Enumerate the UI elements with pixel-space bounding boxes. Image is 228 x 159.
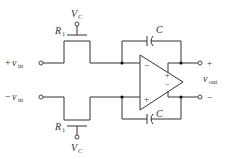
svg-text:1: 1	[62, 30, 65, 37]
negative-input-label: − v in	[5, 91, 24, 103]
svg-text:C: C	[78, 13, 83, 20]
opamp-output-minus-wire	[168, 91, 198, 97]
junction-top-output	[179, 61, 182, 64]
svg-text:R: R	[54, 121, 61, 132]
top-capacitor-label: C	[156, 24, 163, 35]
svg-text:1: 1	[62, 126, 65, 133]
output-plus-label: +	[207, 58, 212, 68]
opamp-noninverting-sign: +	[144, 94, 149, 104]
top-vc-terminal	[75, 22, 79, 26]
svg-text:C: C	[78, 147, 83, 154]
svg-text:in: in	[18, 96, 24, 103]
junction-top-input	[120, 61, 123, 64]
bottom-vc-terminal	[75, 135, 79, 139]
top-feedback-right-wire	[151, 41, 181, 63]
bottom-capacitor-label: C	[156, 108, 163, 119]
top-r1-label: R 1	[54, 25, 65, 37]
svg-text:in: in	[18, 62, 24, 69]
positive-input-terminal	[39, 61, 43, 65]
junction-bottom-input	[120, 95, 123, 98]
output-minus-label: −	[207, 92, 212, 102]
bottom-signal-path	[43, 97, 140, 120]
svg-text:v: v	[203, 73, 208, 84]
top-signal-path	[43, 41, 140, 63]
svg-text:−: −	[5, 91, 11, 102]
positive-input-label: + v in	[5, 57, 24, 69]
opamp-inverting-sign: −	[144, 60, 149, 70]
svg-text:v: v	[12, 91, 17, 102]
opamp-output-plus-wire	[168, 63, 198, 73]
negative-input-terminal	[39, 95, 43, 99]
output-voltage-label: v out	[203, 73, 218, 85]
opamp-output-minus-sign: −	[165, 80, 170, 89]
output-plus-terminal	[198, 61, 202, 65]
svg-text:out: out	[209, 78, 218, 85]
circuit-diagram: + v in V C R 1 − v in V C R 1 C C	[0, 0, 228, 159]
bottom-r1-label: R 1	[54, 121, 65, 133]
svg-text:+: +	[5, 57, 11, 68]
top-vc-label: V C	[71, 8, 83, 20]
bottom-vc-label: V C	[71, 142, 83, 154]
junction-bottom-output	[179, 95, 182, 98]
output-minus-terminal	[198, 95, 202, 99]
svg-text:v: v	[12, 57, 17, 68]
svg-text:R: R	[54, 25, 61, 36]
